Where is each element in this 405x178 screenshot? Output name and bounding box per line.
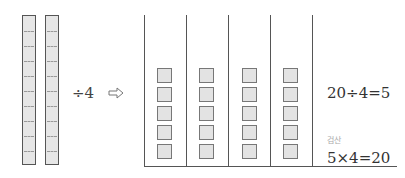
unit-square	[199, 68, 214, 83]
division-equation: 20÷4=5	[327, 84, 390, 102]
ten-rod-2	[45, 15, 59, 165]
rod-segment-line	[47, 106, 57, 107]
group-divider-left	[144, 15, 145, 167]
rod-segment-line	[47, 91, 57, 92]
unit-square	[157, 106, 172, 121]
unit-square	[283, 125, 298, 140]
unit-square	[242, 125, 257, 140]
group-divider-2	[228, 15, 229, 167]
unit-square	[283, 144, 298, 159]
rod-segment-line	[47, 151, 57, 152]
unit-square	[157, 144, 172, 159]
unit-square	[157, 68, 172, 83]
rod-segment-line	[47, 136, 57, 137]
group-divider-right	[312, 15, 313, 167]
rod-segment-line	[24, 136, 34, 137]
unit-square	[157, 125, 172, 140]
rod-segment-line	[24, 31, 34, 32]
multiplication-equation: 5×4=20	[327, 149, 390, 167]
rod-segment-line	[47, 31, 57, 32]
rod-segment-line	[24, 91, 34, 92]
rod-segment-line	[47, 61, 57, 62]
right-arrow-icon	[108, 87, 124, 99]
check-label: 검산	[327, 134, 341, 145]
unit-square	[242, 68, 257, 83]
unit-square	[283, 106, 298, 121]
unit-square	[242, 144, 257, 159]
group-divider-3	[270, 15, 271, 167]
ten-rod-1	[22, 15, 36, 165]
rod-segment-line	[47, 121, 57, 122]
rod-segment-line	[24, 151, 34, 152]
rod-segment-line	[24, 46, 34, 47]
unit-square	[199, 125, 214, 140]
rod-segment-line	[24, 121, 34, 122]
divide-by-label: ÷4	[72, 84, 94, 102]
unit-square	[242, 87, 257, 102]
unit-square	[283, 87, 298, 102]
rod-segment-line	[47, 76, 57, 77]
rod-segment-line	[47, 46, 57, 47]
unit-square	[199, 144, 214, 159]
unit-square	[199, 106, 214, 121]
unit-square	[242, 106, 257, 121]
rod-segment-line	[24, 106, 34, 107]
unit-square	[199, 87, 214, 102]
rod-segment-line	[24, 61, 34, 62]
unit-square	[283, 68, 298, 83]
rod-segment-line	[24, 76, 34, 77]
unit-square	[157, 87, 172, 102]
group-divider-1	[186, 15, 187, 167]
